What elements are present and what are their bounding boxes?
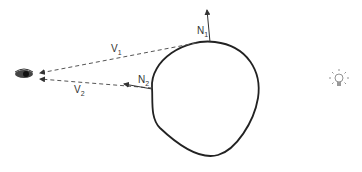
label-v1: V1 xyxy=(111,43,122,56)
diagram-canvas: V1 V2 N1 N2 xyxy=(0,0,362,172)
light-bulb-icon xyxy=(329,69,349,86)
eye-icon xyxy=(15,69,33,78)
label-n2: N2 xyxy=(138,74,149,87)
view-vector-v1 xyxy=(40,43,196,73)
object-surface xyxy=(152,42,259,156)
view-vector-v2 xyxy=(40,79,152,88)
label-v2: V2 xyxy=(74,84,85,97)
label-n1: N1 xyxy=(197,25,208,38)
